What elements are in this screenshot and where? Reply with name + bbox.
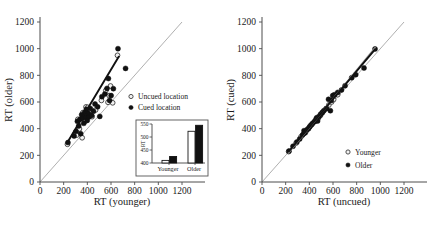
data-point <box>78 131 83 136</box>
right-panel-svg: 020040060080010001200 020040060080010001… <box>222 0 444 231</box>
right-legend: Younger Older <box>346 148 381 170</box>
legend-marker-younger <box>346 150 350 154</box>
data-point <box>111 86 116 91</box>
y-tick-label: 200 <box>242 151 257 161</box>
data-point <box>107 98 112 103</box>
legend-label-uncued-location: Uncued location <box>138 92 188 101</box>
y-tick-label: 1200 <box>237 17 256 27</box>
right-x-axis-title: RT (uncued) <box>318 196 371 208</box>
inset-bar <box>162 160 169 163</box>
x-tick-label: 400 <box>80 186 95 196</box>
y-tick-label: 1000 <box>237 44 256 54</box>
x-tick-label: 1000 <box>149 186 168 196</box>
y-tick-label: 200 <box>20 151 35 161</box>
x-tick-label: 200 <box>57 186 72 196</box>
left-panel-svg: 020040060080010001200 020040060080010001… <box>0 0 222 231</box>
legend-label-cued-location: Cued location <box>138 103 181 112</box>
y-tick-label: 0 <box>29 177 34 187</box>
legend-marker-uncued-location <box>129 94 133 98</box>
x-tick-label: 600 <box>326 186 341 196</box>
inset-y-axis-label: RT <box>140 140 146 147</box>
data-point <box>328 108 333 113</box>
x-tick-label: 400 <box>302 186 317 196</box>
inset-bar-chart: 400450500550 RT Younger Older <box>136 120 208 176</box>
legend-marker-older <box>346 163 350 167</box>
inset-category-label-younger: Younger <box>157 165 178 172</box>
y-tick-label: 1200 <box>15 17 34 27</box>
scatter-panel-younger-older: 020040060080010001200 020040060080010001… <box>0 0 222 231</box>
data-point <box>97 114 102 119</box>
inset-bar <box>188 131 195 163</box>
figure-container: 020040060080010001200 020040060080010001… <box>0 0 444 231</box>
inset-bar <box>196 125 203 163</box>
y-tick-label: 0 <box>251 177 256 187</box>
x-tick-label: 1000 <box>371 186 390 196</box>
left-y-axis-title: RT (older) <box>3 78 15 122</box>
left-legend: Uncued location Cued location <box>129 92 188 112</box>
y-tick-label: 800 <box>242 71 257 81</box>
x-tick-label: 800 <box>128 186 143 196</box>
data-point <box>91 109 96 114</box>
left-y-ticks: 020040060080010001200 <box>15 17 40 187</box>
right-axes <box>262 17 427 182</box>
x-tick-label: 800 <box>350 186 365 196</box>
x-tick-label: 200 <box>279 186 294 196</box>
data-point <box>362 66 367 71</box>
y-tick-label: 800 <box>20 71 35 81</box>
right-y-axis-title: RT (cued) <box>225 78 237 121</box>
y-tick-label: 600 <box>242 97 257 107</box>
inset-y-tick-label: 500 <box>140 134 148 140</box>
data-point <box>102 92 107 97</box>
x-tick-label: 1200 <box>395 186 414 196</box>
inset-y-tick-label: 400 <box>140 160 148 166</box>
y-tick-label: 400 <box>242 124 257 134</box>
x-tick-label: 600 <box>104 186 119 196</box>
legend-label-younger: Younger <box>355 148 381 157</box>
inset-y-tick-label: 550 <box>140 121 148 127</box>
y-tick-label: 400 <box>20 124 35 134</box>
scatter-panel-uncued-cued: 020040060080010001200 020040060080010001… <box>222 0 444 231</box>
left-x-ticks: 020040060080010001200 <box>38 182 192 196</box>
data-point <box>115 46 120 51</box>
right-y-ticks: 020040060080010001200 <box>237 17 262 187</box>
data-point <box>104 86 109 91</box>
right-x-ticks: 020040060080010001200 <box>260 182 414 196</box>
x-tick-label: 1200 <box>173 186 192 196</box>
y-tick-label: 600 <box>20 97 35 107</box>
left-x-axis-title: RT (younger) <box>94 196 151 208</box>
legend-marker-cued-location <box>129 105 133 109</box>
data-point <box>123 66 128 71</box>
x-tick-label: 0 <box>260 186 265 196</box>
right-fit-line <box>289 48 375 153</box>
y-tick-label: 1000 <box>15 44 34 54</box>
data-point <box>95 104 100 109</box>
inset-bar <box>170 157 177 164</box>
data-point <box>109 93 114 98</box>
inset-category-label-older: Older <box>187 165 201 172</box>
legend-label-older: Older <box>355 161 373 170</box>
x-tick-label: 0 <box>38 186 43 196</box>
